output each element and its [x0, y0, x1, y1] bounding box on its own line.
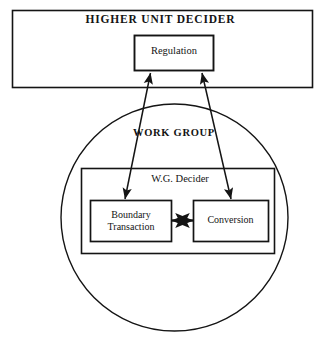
- diagram-canvas: HIGHER UNIT DECIDER Regulation WORK GROU…: [0, 0, 321, 340]
- boundary-transaction-label: Boundary Transaction: [90, 209, 172, 233]
- higher-unit-decider-title: HIGHER UNIT DECIDER: [0, 13, 321, 27]
- conversion-label: Conversion: [193, 214, 268, 226]
- boundary-transaction-label-line1: Boundary: [90, 209, 172, 221]
- boundary-transaction-label-line2: Transaction: [90, 221, 172, 233]
- wg-decider-label: W.G. Decider: [125, 173, 235, 185]
- work-group-title: WORK GROUP: [94, 127, 254, 139]
- regulation-label: Regulation: [134, 45, 214, 57]
